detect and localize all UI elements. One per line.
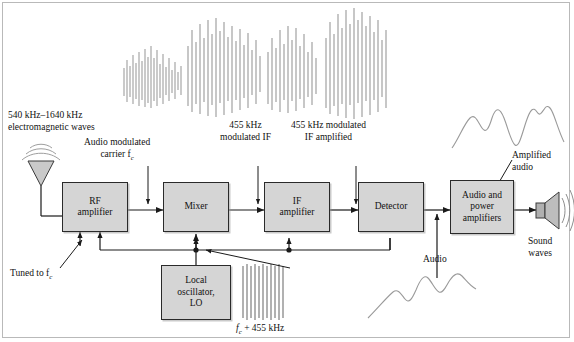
diagram-vector-layer: [0, 0, 574, 342]
block-rf-amplifier-line2: amplifier: [78, 207, 113, 219]
label-tuned-to-text: Tuned to f: [10, 268, 49, 278]
label-if-amplified-line1: 455 kHz modulated: [291, 120, 366, 130]
block-if-amplifier[interactable]: IF amplifier: [264, 182, 330, 232]
lo-carrier-waveform: [243, 264, 283, 320]
label-amplified-audio-line2: audio: [512, 162, 533, 172]
label-lo-frequency: fc + 455 kHz: [236, 323, 284, 338]
block-mixer[interactable]: Mixer: [163, 182, 229, 232]
label-incoming-waves: 540 kHz–1640 kHz electromagnetic waves: [8, 110, 95, 133]
label-audio-modulated-line2: carrier f: [100, 149, 130, 159]
label-455-if-amplified: 455 kHz modulated IF amplified: [291, 120, 366, 143]
if-amplified-waveform: [326, 8, 386, 119]
block-audio-power-line2: power: [462, 201, 502, 213]
junction-dot-mixer: [193, 247, 198, 252]
label-455-if-line2: modulated IF: [220, 132, 271, 142]
label-audio-modulated-line1: Audio modulated: [84, 137, 150, 147]
audio-signal-waveform: [124, 46, 181, 108]
label-audio-modulated-sub: c: [131, 153, 134, 161]
label-incoming-waves-line2: electromagnetic waves: [8, 122, 95, 132]
label-lo-freq-post: + 455 kHz: [242, 323, 285, 333]
block-detector[interactable]: Detector: [358, 182, 424, 232]
label-sound-waves-line1: Sound: [528, 236, 552, 246]
label-tuned-to-sub: c: [49, 273, 52, 281]
label-audio-modulated-carrier: Audio modulated carrier fc: [84, 137, 150, 164]
label-if-amplified-line2: IF amplified: [305, 132, 352, 142]
label-455-if-line1: 455 kHz: [229, 120, 261, 130]
label-incoming-waves-line1: 540 kHz–1640 kHz: [8, 110, 82, 120]
label-amplified-audio-line1: Amplified: [512, 150, 551, 160]
if-modulated-waveform: [268, 26, 316, 113]
antenna-icon: [22, 144, 60, 216]
label-amplified-audio: Amplified audio: [512, 150, 551, 173]
label-455-modulated-if: 455 kHz modulated IF: [220, 120, 271, 143]
block-if-amplifier-line2: amplifier: [280, 207, 315, 219]
block-local-oscillator-line3: LO: [177, 298, 214, 310]
rf-carrier-waveform: [188, 18, 260, 117]
label-sound-waves: Sound waves: [528, 236, 552, 259]
block-audio-power-line3: amplifiers: [462, 213, 502, 225]
block-rf-amplifier-line1: RF: [78, 196, 113, 208]
amplified-audio-waveform: [452, 106, 564, 148]
speaker-icon: [536, 190, 574, 231]
label-tuned-to-fc: Tuned to fc: [10, 268, 52, 283]
diagram-canvas: RF amplifier Mixer IF amplifier Detector…: [0, 0, 574, 342]
block-local-oscillator-line2: oscillator,: [177, 287, 214, 299]
label-sound-waves-line2: waves: [528, 248, 552, 258]
label-audio: Audio: [423, 254, 447, 266]
junction-dot-if: [286, 247, 291, 252]
block-local-oscillator[interactable]: Local oscillator, LO: [161, 265, 231, 320]
block-mixer-line1: Mixer: [184, 201, 207, 213]
block-audio-power-amplifiers[interactable]: Audio and power amplifiers: [450, 180, 514, 234]
block-if-amplifier-line1: IF: [280, 196, 315, 208]
block-detector-line1: Detector: [375, 201, 408, 213]
block-rf-amplifier[interactable]: RF amplifier: [62, 182, 128, 232]
block-audio-power-line1: Audio and: [462, 190, 502, 202]
label-audio-text: Audio: [423, 254, 447, 264]
detected-audio-waveform: [368, 274, 476, 318]
block-local-oscillator-line1: Local: [177, 275, 214, 287]
